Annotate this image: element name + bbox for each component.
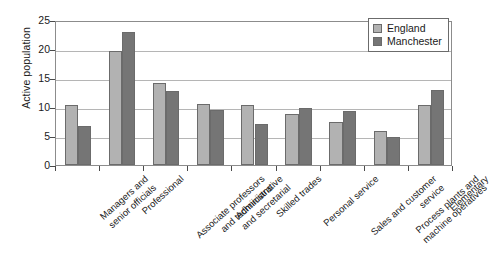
y-axis-tick-label: 5 bbox=[26, 131, 50, 142]
bar-manchester bbox=[255, 124, 268, 165]
x-axis-tick-mark bbox=[320, 166, 321, 171]
y-axis-tick-label: 10 bbox=[26, 102, 50, 113]
bar-england bbox=[418, 105, 431, 165]
bar-england bbox=[374, 131, 387, 165]
bar-england bbox=[153, 83, 166, 165]
legend-label-england: England bbox=[387, 22, 426, 35]
bar-england bbox=[109, 51, 122, 165]
y-axis-tick-label: 15 bbox=[26, 73, 50, 84]
bar-england bbox=[285, 114, 298, 165]
x-axis-tick-mark bbox=[452, 166, 453, 171]
bar-england bbox=[65, 105, 78, 165]
bar-manchester bbox=[299, 108, 312, 165]
bar-manchester bbox=[122, 32, 135, 165]
legend-item-england: England bbox=[373, 22, 442, 35]
bar-england bbox=[197, 104, 210, 165]
x-axis-tick-mark bbox=[187, 166, 188, 171]
x-axis-category-label-line: Personal service bbox=[321, 173, 381, 229]
bar-england bbox=[329, 122, 342, 166]
bar-manchester bbox=[210, 110, 223, 165]
legend-swatch-icon-england bbox=[373, 24, 382, 33]
bar-england bbox=[241, 105, 254, 165]
bar-manchester bbox=[78, 126, 91, 165]
y-axis-tick-label: 20 bbox=[26, 44, 50, 55]
bar-manchester bbox=[431, 90, 444, 165]
bar-manchester bbox=[166, 91, 179, 165]
x-axis-tick-mark bbox=[143, 166, 144, 171]
x-axis-tick-mark bbox=[55, 166, 56, 171]
bar-manchester bbox=[343, 111, 356, 165]
x-axis-tick-mark bbox=[408, 166, 409, 171]
legend: England Manchester bbox=[368, 18, 449, 52]
x-axis-tick-mark bbox=[231, 166, 232, 171]
x-axis-tick-mark bbox=[99, 166, 100, 171]
y-axis-tick-label: 0 bbox=[26, 160, 50, 171]
legend-label-manchester: Manchester bbox=[387, 35, 442, 48]
x-axis-tick-mark bbox=[364, 166, 365, 171]
x-axis-category-label: Personal service bbox=[321, 173, 381, 229]
legend-item-manchester: Manchester bbox=[373, 35, 442, 48]
x-axis-tick-mark bbox=[276, 166, 277, 171]
legend-swatch-icon-manchester bbox=[373, 37, 382, 46]
y-axis-tick-label: 25 bbox=[26, 15, 50, 26]
bar-manchester bbox=[387, 137, 400, 165]
